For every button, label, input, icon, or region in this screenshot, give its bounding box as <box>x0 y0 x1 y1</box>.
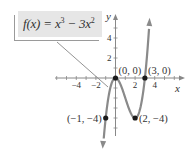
key-points: (0, 0)(3, 0)(−1, −4)(2, −4) <box>67 65 171 125</box>
key-point-label: (2, −4) <box>139 113 168 125</box>
key-point-marker <box>142 75 147 80</box>
curve-arrow-down-icon <box>100 141 106 149</box>
x-tick-label: 2 <box>133 80 138 90</box>
y-tick-label: 2 <box>107 53 112 63</box>
key-point-label: (3, 0) <box>148 65 171 77</box>
y-tick-labels: 24 <box>107 33 112 63</box>
x-tick-label: −2 <box>91 80 101 90</box>
y-tick-label: 4 <box>107 33 112 43</box>
x-tick-label: 4 <box>152 80 157 90</box>
x-tick-label: −4 <box>72 80 82 90</box>
y-axis-label: y <box>105 10 111 22</box>
curve-arrow-up-icon <box>146 18 152 26</box>
key-point-label: (0, 0) <box>119 65 142 77</box>
x-axis-label: x <box>174 82 180 94</box>
key-point-marker <box>113 75 118 80</box>
y-axis <box>113 14 118 136</box>
key-point-label: (−1, −4) <box>67 113 102 125</box>
key-point-marker <box>133 115 138 120</box>
cubic-chart: −4−224 24 x y (0, 0)(3, 0)(−1, −4)(2, −4… <box>0 0 191 150</box>
key-point-marker <box>103 115 108 120</box>
